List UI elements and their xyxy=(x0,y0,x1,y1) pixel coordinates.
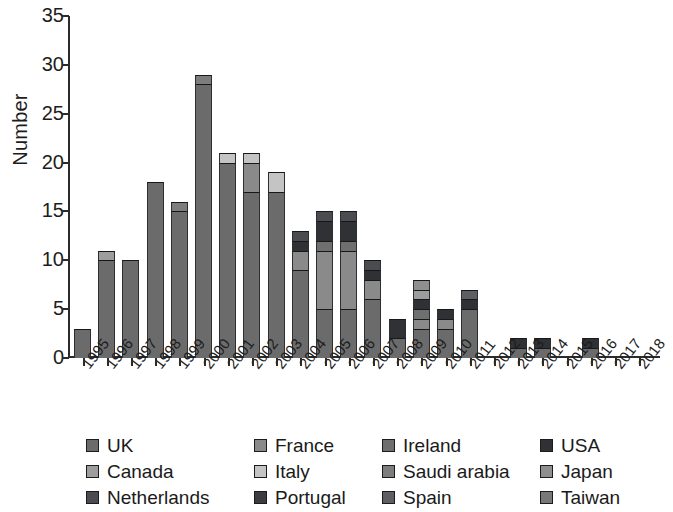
bar-segment[interactable] xyxy=(364,270,381,280)
bar-segment[interactable] xyxy=(219,153,236,163)
bar-segment[interactable] xyxy=(98,251,115,261)
bar-segment[interactable] xyxy=(243,192,260,358)
y-tick-label: 10 xyxy=(28,249,64,269)
legend-label: Canada xyxy=(107,462,174,481)
bar-segment[interactable] xyxy=(461,299,478,309)
bar-segment[interactable] xyxy=(292,241,309,251)
legend-swatch xyxy=(254,491,267,504)
x-tick-mark xyxy=(228,358,230,366)
x-tick-mark xyxy=(615,358,617,366)
x-tick-mark xyxy=(542,358,544,366)
bar-segment[interactable] xyxy=(171,202,188,212)
bar-stack[interactable] xyxy=(147,182,164,358)
y-tick-label: 30 xyxy=(28,54,64,74)
y-tick-label: 0 xyxy=(28,347,64,367)
bar-segment[interactable] xyxy=(316,211,333,221)
legend-swatch xyxy=(382,491,395,504)
bar-segment[interactable] xyxy=(340,251,357,310)
legend-item[interactable]: Portugal xyxy=(254,488,382,507)
x-tick-mark xyxy=(155,358,157,366)
y-tick-mark xyxy=(62,64,69,66)
y-tick-mark xyxy=(62,259,69,261)
bar-stack[interactable] xyxy=(219,153,236,358)
legend-label: Netherlands xyxy=(107,488,209,507)
legend-item[interactable]: Japan xyxy=(540,462,650,481)
bar-segment[interactable] xyxy=(268,192,285,358)
x-tick-mark xyxy=(204,358,206,366)
y-tick-mark xyxy=(62,357,69,359)
bar-stack[interactable] xyxy=(316,211,333,358)
bar-segment[interactable] xyxy=(195,84,212,358)
bar-segment[interactable] xyxy=(437,309,454,319)
bar-segment[interactable] xyxy=(340,211,357,221)
legend-label: UK xyxy=(107,436,133,455)
bar-stack[interactable] xyxy=(171,202,188,358)
bar-segment[interactable] xyxy=(219,163,236,358)
bar-chart-figure: Number 35302520151050 199519961997199819… xyxy=(0,0,673,512)
bar-segment[interactable] xyxy=(292,231,309,241)
bar-segment[interactable] xyxy=(147,182,164,358)
y-axis-tick-labels: 35302520151050 xyxy=(20,0,64,430)
bar-segment[interactable] xyxy=(340,241,357,251)
y-tick-mark xyxy=(62,210,69,212)
bar-segment[interactable] xyxy=(413,290,430,300)
legend-label: Portugal xyxy=(275,488,346,507)
bar-segment[interactable] xyxy=(195,75,212,85)
legend-label: Taiwan xyxy=(561,488,620,507)
legend-item[interactable]: France xyxy=(254,436,382,455)
bar-segment[interactable] xyxy=(389,319,406,339)
bar-segment[interactable] xyxy=(413,280,430,290)
bar-segment[interactable] xyxy=(364,260,381,270)
legend-swatch xyxy=(540,439,553,452)
x-tick-mark xyxy=(446,358,448,366)
x-tick-mark xyxy=(349,358,351,366)
bar-segment[interactable] xyxy=(171,211,188,358)
x-tick-mark xyxy=(179,358,181,366)
legend-item[interactable]: Saudi arabia xyxy=(382,462,540,481)
legend-item[interactable]: Spain xyxy=(382,488,540,507)
legend-swatch xyxy=(254,465,267,478)
bars-container xyxy=(70,16,660,358)
y-tick-label: 25 xyxy=(28,103,64,123)
x-tick-mark xyxy=(639,358,641,366)
bar-segment[interactable] xyxy=(316,241,333,251)
bar-segment[interactable] xyxy=(268,172,285,192)
x-tick-mark xyxy=(567,358,569,366)
legend-swatch xyxy=(86,439,99,452)
legend-item[interactable]: Canada xyxy=(86,462,254,481)
x-tick-mark xyxy=(131,358,133,366)
bar-segment[interactable] xyxy=(413,319,430,329)
legend-label: Saudi arabia xyxy=(403,462,510,481)
legend-item[interactable]: Taiwan xyxy=(540,488,650,507)
x-tick-mark xyxy=(276,358,278,366)
bar-stack[interactable] xyxy=(195,75,212,358)
bar-stack[interactable] xyxy=(268,172,285,358)
bar-segment[interactable] xyxy=(364,280,381,300)
bar-segment[interactable] xyxy=(461,290,478,300)
legend-label: Spain xyxy=(403,488,452,507)
bar-segment[interactable] xyxy=(243,153,260,163)
legend-swatch xyxy=(86,465,99,478)
bar-segment[interactable] xyxy=(413,299,430,309)
x-axis-tick-labels: 1995199619971998199920002001200220032004… xyxy=(70,362,670,426)
y-tick-label: 5 xyxy=(28,298,64,318)
bar-segment[interactable] xyxy=(413,309,430,319)
legend-swatch xyxy=(540,491,553,504)
bar-segment[interactable] xyxy=(437,319,454,329)
legend-item[interactable]: UK xyxy=(86,436,254,455)
legend-label: Japan xyxy=(561,462,613,481)
legend-swatch xyxy=(382,439,395,452)
bar-segment[interactable] xyxy=(340,221,357,241)
legend-item[interactable]: Ireland xyxy=(382,436,540,455)
bar-stack[interactable] xyxy=(243,153,260,358)
legend-item[interactable]: USA xyxy=(540,436,650,455)
x-tick-mark xyxy=(421,358,423,366)
bar-segment[interactable] xyxy=(316,221,333,241)
bar-segment[interactable] xyxy=(316,251,333,310)
legend-item[interactable]: Netherlands xyxy=(86,488,254,507)
bar-segment[interactable] xyxy=(292,251,309,271)
bar-segment[interactable] xyxy=(243,163,260,192)
y-tick-label: 35 xyxy=(28,5,64,25)
legend: UKFranceIrelandUSACanadaItalySaudi arabi… xyxy=(86,432,656,510)
legend-item[interactable]: Italy xyxy=(254,462,382,481)
